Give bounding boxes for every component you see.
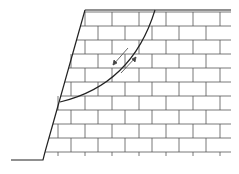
brick-grid (45, 12, 231, 156)
slope-diagram (0, 0, 239, 174)
slope-outline (11, 10, 231, 160)
slip-surface (60, 10, 155, 102)
arrowhead-up-icon (132, 57, 136, 62)
slope-face (45, 10, 85, 152)
ground-line (11, 152, 45, 160)
shear-arrows (113, 48, 136, 73)
